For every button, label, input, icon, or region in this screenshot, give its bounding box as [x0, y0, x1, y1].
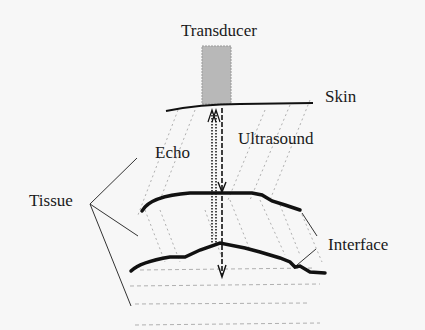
diagram-canvas	[0, 0, 425, 330]
ultrasound-label: Ultrasound	[238, 130, 314, 147]
skin-label: Skin	[325, 88, 356, 105]
interface-line-2	[131, 243, 325, 273]
transducer-block	[202, 46, 231, 104]
skin-line	[166, 103, 313, 111]
echo-beam	[208, 110, 220, 244]
tissue-label: Tissue	[29, 192, 73, 209]
interface-leaders	[297, 213, 317, 265]
tissue-leaders	[90, 158, 138, 306]
interface-label: Interface	[328, 236, 388, 253]
tissue-hatching	[138, 100, 322, 262]
interface-line-1	[142, 193, 300, 211]
echo-label: Echo	[155, 144, 190, 161]
transducer-label: Transducer	[181, 22, 257, 39]
deep-tissue-hatching	[130, 268, 320, 325]
